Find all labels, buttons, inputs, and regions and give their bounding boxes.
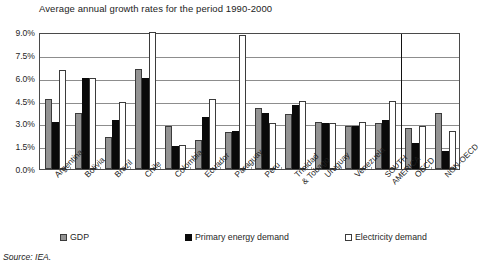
legend-swatch-gdp (60, 234, 67, 241)
y-axis-tick-label: 7.5% (15, 51, 35, 61)
bar-group (40, 34, 70, 169)
bar-pe (112, 120, 119, 169)
bar-el (89, 78, 96, 169)
legend-label: Primary energy demand (195, 232, 289, 242)
legend-swatch-el (345, 234, 352, 241)
bar-gdp (435, 113, 442, 169)
y-axis-tick-label: 9.0% (15, 28, 35, 38)
plot-area (39, 33, 460, 170)
legend-item: GDP (60, 232, 89, 242)
bar-gdp (135, 69, 142, 169)
y-axis: 0.0%1.5%3.0%4.5%6.0%7.5%9.0% (0, 33, 39, 170)
bars-layer (40, 34, 459, 169)
bar-gdp (105, 137, 112, 169)
bar-pe (202, 117, 209, 169)
legend-label: GDP (70, 232, 89, 242)
bar-gdp (285, 114, 292, 169)
bar-group (341, 34, 371, 169)
bar-gdp (225, 132, 232, 169)
bar-pe (52, 122, 59, 169)
bar-gdp (45, 99, 52, 169)
oecd-divider-line (401, 34, 402, 169)
bar-group (220, 34, 250, 169)
bar-pe (352, 126, 359, 169)
bar-pe (142, 78, 149, 169)
bar-pe (292, 105, 299, 169)
legend-label: Electricity demand (355, 232, 427, 242)
bar-group (281, 34, 311, 169)
bar-gdp (165, 126, 172, 169)
bar-group (160, 34, 190, 169)
x-axis: ArgentinaBoliviaBrazilChileColombiaEcuad… (0, 170, 467, 228)
bar-group (311, 34, 341, 169)
legend-item: Primary energy demand (185, 232, 289, 242)
bar-group (431, 34, 461, 169)
y-axis-tick-label: 1.5% (15, 142, 35, 152)
bar-el (59, 70, 66, 169)
bar-el (389, 101, 396, 170)
bar-el (149, 32, 156, 169)
bar-pe (262, 113, 269, 169)
bar-el (239, 35, 246, 169)
bar-group (130, 34, 160, 169)
bar-pe (382, 120, 389, 169)
bar-pe (232, 131, 239, 169)
chart-title: Average annual growth rates for the peri… (39, 3, 272, 14)
y-axis-tick-label: 6.0% (15, 74, 35, 84)
source-note: Source: IEA. (3, 252, 51, 262)
legend-swatch-pe (185, 234, 192, 241)
y-axis-tick-label: 4.5% (15, 97, 35, 107)
chart-legend: GDPPrimary energy demandElectricity dema… (0, 232, 467, 246)
y-axis-tick-label: 3.0% (15, 119, 35, 129)
legend-item: Electricity demand (345, 232, 427, 242)
bar-group (100, 34, 130, 169)
